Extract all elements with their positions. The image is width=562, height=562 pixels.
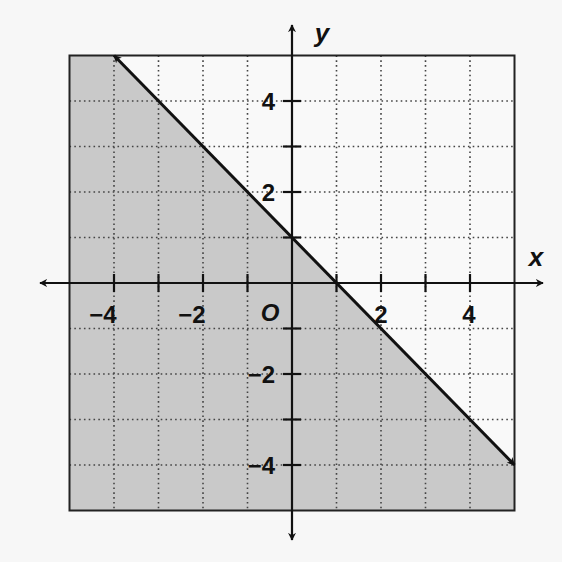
x-tick-label-neg2: −2 [178,301,205,328]
coordinate-plane-figure: y x O −4 −2 2 4 4 2 −2 −4 [0,0,562,562]
y-tick-label-neg2: −2 [248,361,275,388]
x-axis-label: x [527,242,545,272]
origin-label: O [261,299,280,326]
graph-svg: y x O −4 −2 2 4 4 2 −2 −4 [0,0,562,562]
y-tick-label-2: 2 [262,179,275,206]
y-axis-label: y [313,18,331,48]
y-tick-label-4: 4 [262,88,276,115]
x-tick-label-neg4: −4 [89,301,117,328]
x-tick-label-2: 2 [374,301,387,328]
x-tick-label-4: 4 [462,301,476,328]
y-tick-label-neg4: −4 [248,452,276,479]
